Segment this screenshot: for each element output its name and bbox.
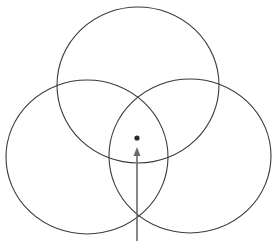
circle-right (109, 79, 271, 233)
arrow-head-icon (134, 147, 141, 156)
circle-left (6, 80, 168, 234)
venn-diagram (0, 0, 274, 246)
center-dot (134, 135, 139, 140)
